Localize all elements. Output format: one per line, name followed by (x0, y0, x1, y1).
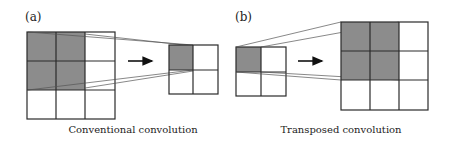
panel-b-label: (b) (235, 10, 252, 24)
panel-b-input-grid (236, 47, 286, 96)
shaded-input-cell (236, 47, 261, 72)
panel-a-input-grid (27, 32, 115, 119)
panel-b-output-grid (341, 22, 428, 110)
panel-a: (a) Conventional convolution (25, 10, 218, 135)
panel-a-label: (a) (25, 10, 42, 24)
panel-a-caption: Conventional convolution (68, 124, 198, 135)
convolution-diagram: (a) Conventional convolution (0, 0, 450, 142)
panel-a-output-grid (169, 45, 218, 94)
panel-b: (b) Transposed convolution (235, 10, 428, 135)
shaded-output-cell (169, 45, 193, 70)
panel-b-caption: Transposed convolution (280, 124, 402, 135)
